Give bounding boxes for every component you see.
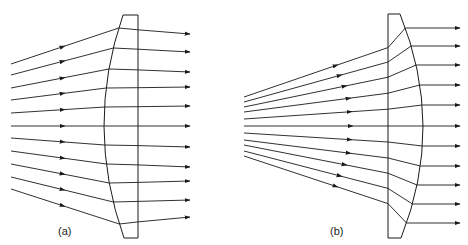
incident-ray — [244, 112, 352, 119]
refracted-ray — [138, 70, 190, 72]
panel-a-label: (a) — [58, 225, 71, 237]
refracted-ray — [138, 49, 190, 52]
panel-a — [11, 15, 190, 238]
incident-ray — [11, 164, 65, 174]
incident-ray — [244, 75, 342, 102]
incident-ray — [11, 110, 65, 113]
refracted-ray — [138, 87, 190, 88]
incident-ray — [11, 46, 65, 64]
refracted-ray — [138, 200, 190, 201]
incident-ray — [11, 189, 65, 206]
refracted-ray — [138, 146, 190, 147]
incident-ray — [11, 78, 65, 88]
incident-ray — [244, 133, 352, 140]
incident-ray — [11, 138, 65, 142]
incident-ray — [11, 93, 65, 100]
lens-ray-diagram — [0, 0, 468, 245]
panel-b — [244, 14, 460, 238]
refracted-ray — [138, 106, 190, 107]
refracted-ray — [138, 181, 190, 182]
incident-ray — [11, 61, 65, 75]
incident-ray — [244, 86, 347, 107]
panel-b-label: (b) — [330, 225, 343, 237]
incident-ray — [244, 140, 351, 153]
refracted-ray — [138, 30, 190, 34]
incident-ray — [11, 177, 65, 190]
refracted-ray — [138, 165, 190, 167]
incident-ray — [11, 151, 65, 158]
refracted-ray — [138, 217, 190, 222]
incident-ray — [244, 65, 338, 97]
incident-ray — [244, 98, 351, 112]
